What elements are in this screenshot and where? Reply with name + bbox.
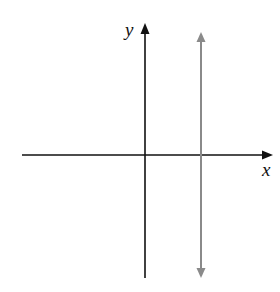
coordinate-diagram: x y xyxy=(0,0,280,292)
vertical-line-bottom-arrow-icon xyxy=(197,268,206,278)
y-axis-label: y xyxy=(123,19,134,40)
x-axis xyxy=(22,151,273,160)
y-axis xyxy=(141,23,150,278)
vertical-line-top-arrow-icon xyxy=(197,32,206,42)
y-axis-arrow-icon xyxy=(141,23,150,34)
x-axis-label: x xyxy=(261,159,271,180)
